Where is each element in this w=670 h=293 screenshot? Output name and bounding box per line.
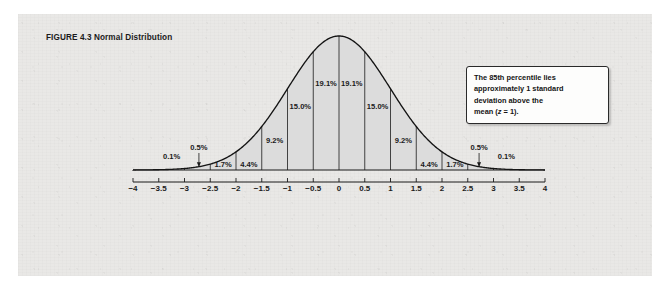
band-percent-label-10: 4.4%: [420, 160, 438, 169]
band-percent-label-2: 1.7%: [214, 160, 232, 169]
zscore-tick-label-1: −3.5: [151, 184, 167, 193]
band-percent-label-4: 9.2%: [266, 136, 284, 145]
zscore-tick-label-14: 3: [491, 184, 496, 193]
zscore-tick-label-8: 0: [337, 184, 342, 193]
band-percent-label-8: 15.0%: [367, 102, 389, 111]
band-percent-label-3: 4.4%: [240, 160, 258, 169]
band-percent-label-1: 0.5%: [190, 143, 208, 152]
band-percent-label-7: 19.1%: [341, 79, 363, 88]
zscore-tick-label-6: −1: [283, 184, 293, 193]
figure-page: FIGURE 4.3 Normal Distribution 0.1%0.5%1…: [0, 0, 670, 293]
band-percent-label-0: 0.1%: [163, 152, 181, 161]
band-percent-label-13: 0.1%: [498, 152, 516, 161]
zscore-tick-label-2: −3: [180, 184, 190, 193]
normal-distribution-chart: 0.1%0.5%1.7%4.4%9.2%15.0%19.1%19.1%15.0%…: [18, 14, 652, 276]
band-percent-label-6: 19.1%: [315, 79, 337, 88]
band-percent-label-5: 15.0%: [290, 102, 312, 111]
callout-box-85th-percentile: The 85th percentile lies approximately 1…: [466, 66, 609, 124]
callout-line-3: deviation above the: [474, 96, 543, 105]
zscore-tick-label-12: 2: [440, 184, 445, 193]
zscore-tick-label-4: −2: [231, 184, 241, 193]
callout-line-1: The 85th percentile lies: [474, 73, 556, 82]
band-percent-label-9: 9.2%: [395, 136, 413, 145]
zscore-tick-label-9: 0.5: [359, 184, 371, 193]
zscore-tick-label-10: 1: [388, 184, 393, 193]
callout-line-4-prefix: mean (: [474, 107, 498, 116]
zscore-tick-label-7: −0.5: [305, 184, 321, 193]
zscore-tick-label-0: −4: [128, 184, 138, 193]
zscore-tick-label-13: 2.5: [462, 184, 474, 193]
zscore-tick-label-15: 3.5: [514, 184, 526, 193]
callout-line-4-suffix: = 1).: [502, 107, 519, 116]
zscore-tick-label-16: 4: [543, 184, 548, 193]
band-percent-label-11: 1.7%: [446, 160, 464, 169]
zscore-tick-label-3: −2.5: [202, 184, 218, 193]
callout-line-2: approximately 1 standard: [474, 84, 564, 93]
zscore-tick-label-5: −1.5: [254, 184, 270, 193]
band-percent-label-12: 0.5%: [470, 143, 488, 152]
zscore-tick-label-11: 1.5: [411, 184, 423, 193]
